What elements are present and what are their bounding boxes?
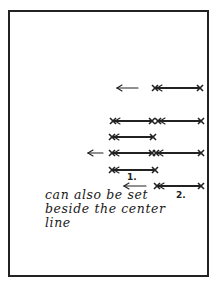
label-2: 2. — [176, 190, 186, 200]
handwritten-note: can also be set beside the center line — [45, 188, 166, 230]
note-line-2: beside the center — [45, 202, 166, 216]
note-line-1: can also be set — [45, 188, 166, 202]
stitch-diagram — [0, 0, 219, 289]
label-1: 1. — [127, 172, 137, 182]
note-line-3: line — [45, 216, 166, 230]
